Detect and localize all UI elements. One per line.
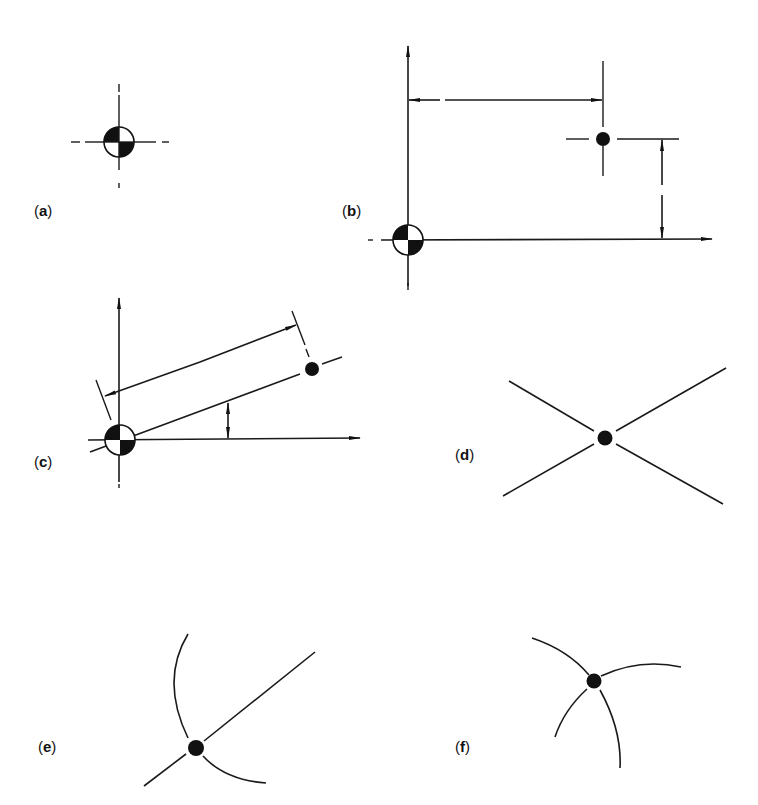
panel-d-two-lines-intersection [503, 368, 726, 504]
panel-a-label: (a) [34, 202, 52, 219]
point-icon [587, 674, 602, 689]
point-icon [305, 362, 319, 376]
panel-d-label: (d) [455, 446, 474, 463]
figure-canvas [0, 0, 758, 805]
datum-centroid-icon [105, 425, 135, 455]
panel-e-label: (e) [38, 738, 56, 755]
point-icon [188, 740, 204, 756]
panel-f-two-arcs-intersection [532, 638, 681, 768]
point-icon [598, 431, 613, 446]
panel-c-label: (c) [34, 453, 52, 470]
panel-b-label: (b) [342, 202, 361, 219]
point-icon [596, 132, 610, 146]
panel-e-line-and-arc-intersection [144, 634, 315, 786]
panel-f-label: (f) [455, 738, 470, 755]
panel-b-rectangular-coordinates [368, 46, 712, 290]
panel-a-centroid-symbol [71, 84, 169, 188]
datum-centroid-icon [393, 225, 423, 255]
centroid-icon [104, 127, 134, 157]
panel-c-polar-coordinates [88, 298, 360, 488]
